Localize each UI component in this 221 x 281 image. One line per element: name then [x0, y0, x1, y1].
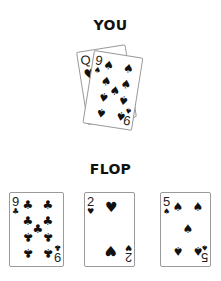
you-heading: YOU — [0, 17, 221, 33]
heart-icon: ♥ — [105, 201, 117, 213]
heart-icon: ♥ — [105, 245, 117, 257]
club-icon: ♣ — [22, 199, 34, 211]
spade-icon: ♠ — [172, 245, 184, 257]
hand-card-nine-of-spades: 9 ♠ 9 ♠ ♠ ♠ ♠ ♠ ♠ ♠ ♠ ♠ ♠ — [82, 50, 143, 131]
flop-card-nine-of-clubs: 9 ♣ 9 ♣ ♣ ♣ ♣ ♣ ♣ ♣ ♣ ♣ ♣ — [9, 192, 64, 267]
spade-icon: ♠ — [192, 201, 204, 213]
spade-icon: ♠ — [102, 59, 116, 73]
card-rank: 9 — [54, 251, 61, 264]
flop-heading: FLOP — [0, 161, 221, 177]
club-icon: ♣ — [12, 208, 19, 216]
club-icon: ♣ — [42, 199, 54, 211]
flop-card-five-of-spades: 5 ♠ 5 ♠ ♠ ♠ ♠ ♠ ♠ — [160, 192, 211, 267]
club-icon: ♣ — [42, 231, 54, 243]
club-icon: ♣ — [22, 231, 34, 243]
spade-icon: ♠ — [122, 62, 136, 76]
spade-icon: ♠ — [172, 201, 184, 213]
club-icon: ♣ — [54, 243, 61, 251]
club-icon: ♣ — [42, 247, 54, 259]
spade-icon: ♠ — [114, 109, 128, 123]
club-icon: ♣ — [22, 247, 34, 259]
heart-icon: ♥ — [87, 208, 94, 216]
spade-icon: ♠ — [117, 93, 131, 107]
heart-icon: ♥ — [125, 243, 132, 251]
spade-icon: ♠ — [94, 106, 108, 120]
spade-icon: ♠ — [97, 90, 111, 104]
spade-icon: ♠ — [163, 208, 170, 216]
spade-icon: ♠ — [192, 245, 204, 257]
card-rank: 2 — [125, 251, 132, 264]
spade-icon: ♠ — [182, 223, 194, 235]
flop-card-two-of-hearts: 2 ♥ 2 ♥ ♥ ♥ — [84, 192, 135, 267]
